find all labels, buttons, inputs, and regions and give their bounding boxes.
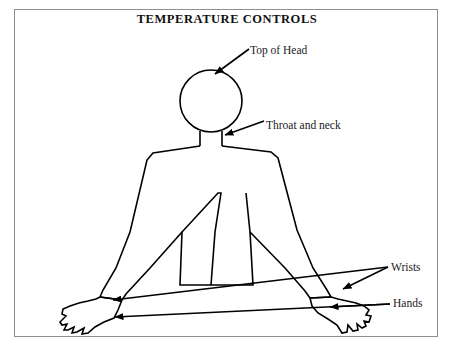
callout-label-throat-and-neck: Throat and neck xyxy=(266,119,341,131)
callout-label-wrists: Wrists xyxy=(391,261,421,273)
left-hand-outline xyxy=(60,297,122,334)
arrow-throat-and-neck xyxy=(225,121,264,135)
callout-label-top-of-head: Top of Head xyxy=(250,44,307,56)
head-outline xyxy=(180,70,242,132)
right-hand-outline xyxy=(310,297,371,333)
arrow-hands-left xyxy=(115,304,390,317)
torso-inner-right xyxy=(211,193,253,285)
neck-outline xyxy=(200,131,222,146)
figure-root: TEMPERATURE CONTROLS xyxy=(0,0,454,351)
right-wrist-crease xyxy=(310,297,331,298)
inner-arm-left xyxy=(122,232,182,300)
inner-arm-right xyxy=(250,232,310,298)
arrow-top-of-head xyxy=(215,49,249,74)
callout-label-hands: Hands xyxy=(393,297,422,309)
human-figure-diagram xyxy=(0,0,454,351)
torso-outline xyxy=(100,146,331,297)
torso-inner-left xyxy=(180,193,221,285)
arrow-wrists-left xyxy=(113,267,388,300)
